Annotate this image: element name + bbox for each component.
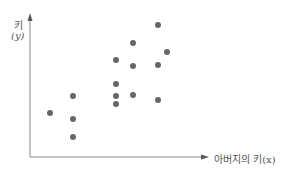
data-point	[70, 134, 76, 140]
data-point	[155, 97, 161, 103]
data-point	[70, 93, 76, 99]
data-point	[70, 116, 76, 122]
data-point	[113, 101, 119, 107]
y-axis-variable: (y)	[11, 30, 24, 41]
y-axis-arrow-icon	[28, 13, 33, 21]
axes	[28, 13, 210, 160]
data-point	[130, 63, 136, 69]
data-point	[130, 40, 136, 46]
x-axis-label: 아버지의 키(x)	[214, 151, 276, 166]
data-point	[113, 81, 119, 87]
data-point	[155, 62, 161, 68]
x-axis-arrow-icon	[201, 155, 209, 160]
data-point	[164, 49, 170, 55]
data-point	[113, 57, 119, 63]
data-point	[155, 22, 161, 28]
data-point	[130, 92, 136, 98]
data-point	[113, 93, 119, 99]
data-points	[47, 22, 170, 140]
data-point	[47, 110, 53, 116]
